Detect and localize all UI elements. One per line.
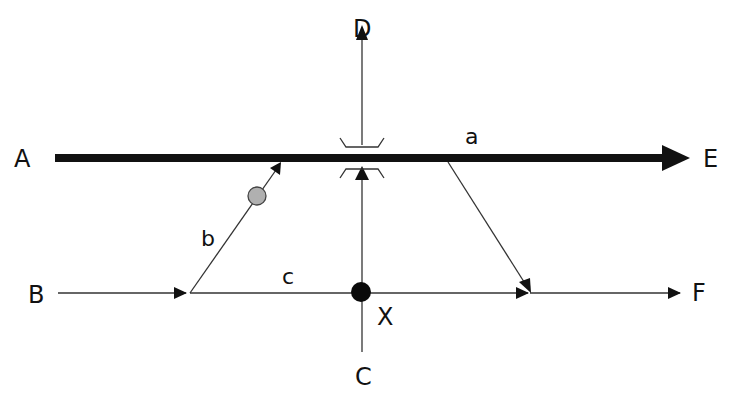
node-label-b: B bbox=[28, 283, 44, 307]
arrowhead-b-icon bbox=[270, 162, 281, 175]
node-label-c: C bbox=[355, 365, 372, 389]
arrowhead-up-bridge-icon bbox=[355, 166, 369, 180]
node-label-f: F bbox=[692, 281, 706, 305]
edge-label-a: a bbox=[465, 126, 478, 148]
edge-a bbox=[448, 162, 531, 293]
node-label-e: E bbox=[703, 147, 718, 171]
edge-a-to-e bbox=[55, 145, 690, 171]
edge-label-b: b bbox=[201, 228, 215, 250]
node-x-dot-icon bbox=[351, 282, 371, 302]
edge-label-c: c bbox=[282, 266, 294, 288]
diagram-canvas bbox=[0, 0, 736, 394]
arrowhead-e-icon bbox=[662, 145, 690, 171]
node-label-x: X bbox=[377, 305, 393, 329]
node-label-d: D bbox=[353, 17, 371, 41]
node-label-a: A bbox=[14, 147, 30, 171]
arrowhead-a-icon bbox=[519, 278, 531, 293]
gray-circle-marker-icon bbox=[248, 187, 266, 205]
